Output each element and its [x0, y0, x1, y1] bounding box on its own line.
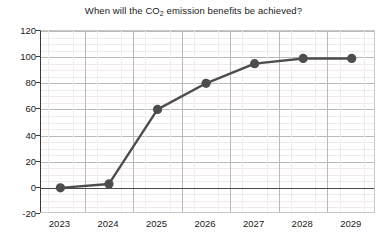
- x-axis-tick-label: 2028: [292, 218, 313, 229]
- x-axis-tick-labels: 2023202420252026202720282029: [40, 218, 375, 234]
- data-point-marker: [153, 105, 162, 114]
- series-line: [60, 58, 351, 187]
- data-point-marker: [201, 79, 210, 88]
- y-axis-tick-label: 20: [2, 155, 36, 166]
- y-axis-tick-label: 40: [2, 129, 36, 140]
- x-axis-tick-label: 2024: [97, 218, 118, 229]
- y-axis-tick-label: 80: [2, 77, 36, 88]
- x-axis-tick-label: 2027: [243, 218, 264, 229]
- y-axis-tick-mark: [36, 213, 40, 214]
- chart-title-subscript: 2: [160, 10, 164, 17]
- y-axis-tick-label: 120: [2, 25, 36, 36]
- y-axis-tick-labels: -20020406080100120: [0, 30, 36, 213]
- y-axis-tick-label: 0: [2, 181, 36, 192]
- y-axis-tick-label: -20: [2, 208, 36, 219]
- data-point-marker: [299, 54, 308, 63]
- chart-figure: When will the CO2 emission benefits be a…: [0, 0, 387, 250]
- plot-area: [40, 30, 375, 213]
- y-axis-tick-label: 100: [2, 51, 36, 62]
- data-point-marker: [56, 183, 65, 192]
- data-point-marker: [104, 179, 113, 188]
- x-axis-tick-label: 2023: [49, 218, 70, 229]
- x-axis-tick-label: 2029: [340, 218, 361, 229]
- x-axis-tick-label: 2026: [194, 218, 215, 229]
- chart-title-text-before: When will the CO: [85, 5, 160, 16]
- chart-title: When will the CO2 emission benefits be a…: [0, 5, 387, 16]
- data-point-marker: [250, 59, 259, 68]
- data-point-marker: [347, 54, 356, 63]
- y-axis-tick-label: 60: [2, 103, 36, 114]
- chart-title-text-after: emission benefits be achieved?: [164, 5, 302, 16]
- x-axis-tick-label: 2025: [146, 218, 167, 229]
- data-series-line: [41, 31, 375, 213]
